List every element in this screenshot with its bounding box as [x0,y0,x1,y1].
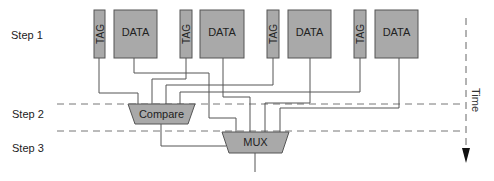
way-1: TAG DATA [94,10,157,58]
tag-label: TAG [355,24,366,44]
data-label: DATA [296,26,324,38]
compare-unit: Compare [128,104,195,124]
compare-label: Compare [139,108,184,120]
tag-label: TAG [95,24,106,44]
data-label: DATA [208,26,236,38]
mux-unit: MUX [222,132,289,153]
cache-lookup-diagram: TAG DATA TAG DATA TAG DATA TAG DATA Comp… [0,0,494,181]
tag-label: TAG [181,24,192,44]
way-3: TAG DATA [267,10,331,58]
data-label: DATA [383,26,411,38]
arrow-down-icon [462,148,470,163]
tag-label: TAG [268,24,279,44]
way-4: TAG DATA [354,10,418,58]
time-label: Time [470,88,482,112]
way-2: TAG DATA [180,10,244,58]
time-axis: Time [462,18,482,163]
data-label: DATA [122,26,150,38]
mux-label: MUX [243,136,268,148]
